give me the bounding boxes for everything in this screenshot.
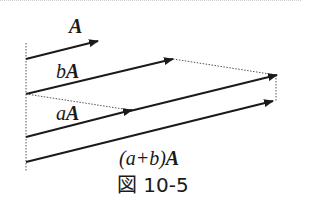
label-a: A [69, 16, 82, 36]
label-sum: (a+b)A [119, 148, 179, 168]
vector-ba-arrow [26, 59, 173, 94]
label-ba: bA [56, 61, 79, 81]
vector-a-arrow [26, 41, 98, 59]
label-aa: aA [56, 103, 79, 123]
dotted-guide-to-sum-tip [173, 59, 276, 75]
figure-caption: 図 10-5 [117, 175, 189, 195]
